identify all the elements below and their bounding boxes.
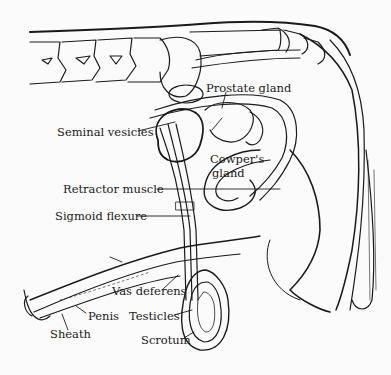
label-prostate-gland: Prostate gland <box>206 82 291 94</box>
label-cowpers-gland-line2: gland <box>212 167 245 179</box>
label-penis: Penis <box>88 310 119 322</box>
label-sheath: Sheath <box>50 328 91 340</box>
label-sigmoid-flexure: Sigmoid flexure <box>55 210 147 222</box>
label-vas-deferens: Vas deferens <box>112 285 187 297</box>
prostate-region <box>169 85 203 103</box>
anatomy-drawing <box>0 0 391 375</box>
label-retractor-muscle: Retractor muscle <box>63 183 164 195</box>
label-cowpers-gland-line1: Cowper's <box>210 153 264 165</box>
label-testicles: Testicles <box>129 310 180 322</box>
label-scrotum: Scrotum <box>141 334 191 346</box>
reproductive-tract-diagram: Prostate gland Seminal vesicles Cowper's… <box>0 0 391 375</box>
label-seminal-vesicles: Seminal vesicles <box>57 126 154 138</box>
